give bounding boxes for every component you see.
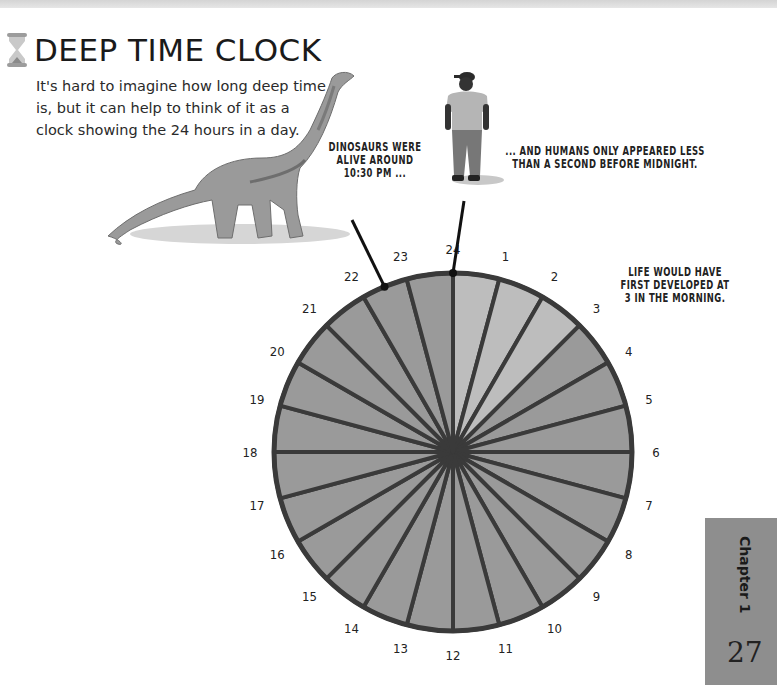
hour-label: 18 (243, 445, 258, 460)
hour-label: 1 (502, 249, 509, 264)
life-caption-line: 3 IN THE MORNING. (617, 292, 734, 305)
hour-label: 16 (270, 547, 285, 562)
page-number: 27 (727, 636, 763, 669)
hour-label: 14 (344, 621, 359, 636)
dinosaurs-caption-line: 10:30 PM ... (320, 167, 429, 180)
hour-label: 22 (344, 269, 359, 284)
marker-dot-humans (449, 269, 457, 277)
chapter-tab: Chapter 1 27 (705, 518, 777, 685)
hour-label: 4 (625, 344, 632, 359)
hour-label: 3 (593, 301, 600, 316)
person-illustration (445, 72, 489, 181)
hour-label: 20 (270, 344, 285, 359)
hour-label: 7 (645, 498, 652, 513)
deep-time-clock: 241234567891011121314151617181920212223 (243, 201, 660, 663)
hour-label: 19 (249, 392, 264, 407)
illustration-layer: 241234567891011121314151617181920212223 (0, 0, 777, 685)
hour-label: 12 (446, 648, 461, 663)
hour-label: 15 (302, 589, 317, 604)
hour-label: 9 (593, 589, 600, 604)
chapter-label: Chapter 1 (737, 536, 753, 613)
hour-label: 17 (249, 498, 264, 513)
sauropod-illustration (108, 72, 354, 244)
hour-label: 5 (645, 392, 652, 407)
dinosaurs-caption: DINOSAURS WERE ALIVE AROUND 10:30 PM ... (320, 141, 429, 180)
marker-line-humans (453, 201, 464, 273)
humans-caption-line: THAN A SECOND BEFORE MIDNIGHT. (500, 158, 711, 171)
marker-dot-dinosaurs (380, 283, 388, 291)
hour-label: 2 (551, 269, 558, 284)
dinosaur-shadow (130, 224, 350, 244)
hour-label: 8 (625, 547, 632, 562)
humans-caption: ... AND HUMANS ONLY APPEARED LESS THAN A… (500, 145, 711, 171)
hour-label: 13 (393, 641, 408, 656)
life-caption: LIFE WOULD HAVE FIRST DEVELOPED AT 3 IN … (617, 266, 734, 305)
hour-label: 23 (393, 249, 408, 264)
hour-label: 10 (547, 621, 562, 636)
hour-label: 6 (652, 445, 659, 460)
hour-label: 21 (302, 301, 317, 316)
hour-label: 11 (498, 641, 513, 656)
